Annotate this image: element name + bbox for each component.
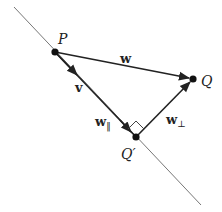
label-w-parallel: w‖ xyxy=(94,114,111,132)
label-v: v xyxy=(74,80,83,95)
label-w-perp: w⊥ xyxy=(165,112,186,129)
label-w: w xyxy=(119,51,132,66)
point-Q-prime xyxy=(132,133,139,140)
label-Q: Q xyxy=(201,73,213,89)
point-P xyxy=(51,48,58,55)
label-Q-prime: Q′ xyxy=(121,146,136,162)
label-P: P xyxy=(57,31,68,47)
vector-projection-diagram: P Q Q′ w v w‖ w⊥ xyxy=(0,0,222,212)
point-Q xyxy=(189,75,196,82)
label-w-perp-base: w xyxy=(165,112,178,127)
label-w-perp-sub: ⊥ xyxy=(177,119,185,129)
vector-w-parallel-head xyxy=(120,120,131,132)
label-w-parallel-base: w xyxy=(94,114,107,129)
label-w-parallel-sub: ‖ xyxy=(106,121,111,132)
right-angle-marker xyxy=(128,121,144,129)
